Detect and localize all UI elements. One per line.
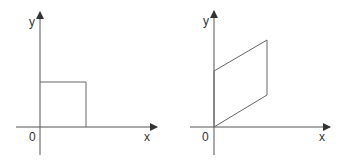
left-origin-label: 0 xyxy=(29,130,36,144)
right-parallelogram xyxy=(214,40,267,127)
right-x-label: x xyxy=(319,130,325,144)
right-y-label: y xyxy=(203,14,209,28)
left-x-label: x xyxy=(144,130,150,144)
left-square xyxy=(40,82,86,127)
right-origin-label: 0 xyxy=(202,130,209,144)
left-coordinate-system: y 0 x xyxy=(16,12,157,155)
right-coordinate-system: y 0 x xyxy=(190,11,330,155)
diagram-canvas: y 0 x y 0 x xyxy=(0,0,344,162)
left-y-label: y xyxy=(29,15,35,29)
